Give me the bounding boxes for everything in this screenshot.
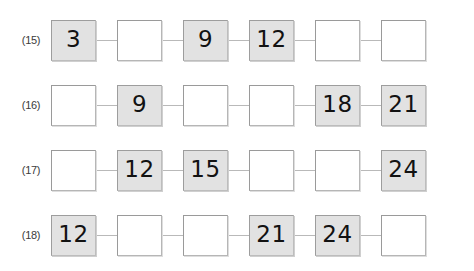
connector-line (162, 235, 183, 236)
box-value: 24 (388, 158, 418, 181)
connector-line (162, 105, 183, 106)
connector-line (228, 40, 249, 41)
sequence-row: (15) 3 9 12 (0, 17, 474, 63)
connector-line (96, 170, 117, 171)
box-value: 24 (322, 223, 352, 246)
box-value: 12 (124, 158, 154, 181)
connector-line (96, 40, 117, 41)
connector-line (360, 105, 381, 106)
connector-line (96, 235, 117, 236)
box-chain: 3 9 12 (51, 17, 426, 63)
row-label: (18) (14, 229, 48, 241)
connector-line (162, 40, 183, 41)
box-value: 21 (388, 93, 418, 116)
connector-line (294, 105, 315, 106)
box-value: 18 (322, 93, 352, 116)
sequence-box[interactable]: 12 (249, 20, 294, 61)
box-value: 12 (58, 223, 88, 246)
sequence-box[interactable] (117, 215, 162, 256)
sequence-box[interactable] (249, 150, 294, 191)
sequence-box[interactable] (51, 85, 96, 126)
sequence-box[interactable]: 3 (51, 20, 96, 61)
connector-line (360, 40, 381, 41)
box-chain: 12 15 24 (51, 147, 426, 193)
sequence-row: (17) 12 15 24 (0, 147, 474, 193)
sequence-box[interactable]: 24 (381, 150, 426, 191)
box-value: 12 (256, 28, 286, 51)
connector-line (360, 170, 381, 171)
row-label: (17) (14, 164, 48, 176)
connector-line (228, 235, 249, 236)
sequence-row: (16) 9 18 21 (0, 82, 474, 128)
box-value: 15 (190, 158, 220, 181)
sequence-box[interactable]: 24 (315, 215, 360, 256)
sequence-box[interactable] (315, 150, 360, 191)
sequence-box[interactable] (315, 20, 360, 61)
box-value: 3 (66, 28, 81, 51)
sequence-box[interactable]: 9 (183, 20, 228, 61)
sequence-row: (18) 12 21 24 (0, 212, 474, 258)
sequence-box[interactable] (381, 20, 426, 61)
sequence-box[interactable]: 12 (117, 150, 162, 191)
box-chain: 9 18 21 (51, 82, 426, 128)
box-value: 9 (198, 28, 213, 51)
box-chain: 12 21 24 (51, 212, 426, 258)
sequence-box[interactable] (183, 85, 228, 126)
sequence-box[interactable]: 12 (51, 215, 96, 256)
sequence-box[interactable] (183, 215, 228, 256)
connector-line (228, 105, 249, 106)
row-label: (15) (14, 34, 48, 46)
connector-line (294, 170, 315, 171)
worksheet: (15) 3 9 12 (0, 0, 474, 271)
connector-line (96, 105, 117, 106)
sequence-box[interactable]: 9 (117, 85, 162, 126)
sequence-box[interactable] (117, 20, 162, 61)
connector-line (360, 235, 381, 236)
box-value: 21 (256, 223, 286, 246)
sequence-box[interactable]: 15 (183, 150, 228, 191)
sequence-box[interactable] (381, 215, 426, 256)
sequence-box[interactable]: 21 (249, 215, 294, 256)
connector-line (228, 170, 249, 171)
sequence-box[interactable] (51, 150, 96, 191)
box-value: 9 (132, 93, 147, 116)
sequence-box[interactable] (249, 85, 294, 126)
connector-line (294, 235, 315, 236)
row-label: (16) (14, 99, 48, 111)
sequence-box[interactable]: 21 (381, 85, 426, 126)
connector-line (162, 170, 183, 171)
connector-line (294, 40, 315, 41)
sequence-box[interactable]: 18 (315, 85, 360, 126)
